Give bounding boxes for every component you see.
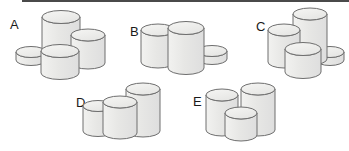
- cylinder-top-ellipse: [206, 89, 238, 101]
- cylinder-top-ellipse: [268, 24, 300, 36]
- panel-d: [83, 83, 160, 139]
- cylinder-top-ellipse: [225, 107, 257, 119]
- cylinders-canvas: [0, 0, 349, 151]
- cylinder-e-front-short-cylinder: [225, 107, 257, 141]
- panel-e: [206, 83, 275, 141]
- cylinder-a-short-wide-cylinder: [41, 45, 79, 80]
- cylinder-c-short-wide-cylinder: [285, 43, 321, 79]
- cylinder-top-ellipse: [42, 11, 80, 24]
- cylinder-top-ellipse: [285, 43, 321, 56]
- cylinder-top-ellipse: [241, 83, 275, 95]
- cylinder-top-ellipse: [126, 83, 160, 95]
- panel-c: [268, 8, 344, 79]
- cylinder-d-center-cylinder: [103, 96, 137, 139]
- cylinder-top-ellipse: [168, 22, 204, 35]
- cylinder-b-right-cylinder: [168, 22, 204, 75]
- cylinder-groups-figure: ABCDE: [0, 0, 349, 151]
- cylinder-top-ellipse: [71, 29, 105, 41]
- cylinder-top-ellipse: [41, 45, 79, 58]
- cylinder-top-ellipse: [103, 96, 137, 108]
- panel-a: [16, 11, 105, 80]
- cylinder-top-ellipse: [293, 8, 327, 20]
- panel-b: [141, 22, 227, 75]
